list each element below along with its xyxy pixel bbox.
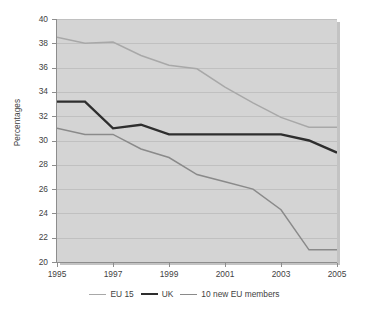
- plot-area-wrapper: [57, 19, 337, 262]
- x-axis-line: [56, 262, 337, 263]
- legend-item[interactable]: EU 15: [89, 290, 133, 298]
- x-axis-tick: [225, 263, 226, 267]
- series-lines: [57, 19, 337, 262]
- y-axis-tick: [52, 92, 57, 93]
- x-axis-tick: [169, 263, 170, 267]
- y-axis-label: 30: [20, 136, 48, 144]
- legend-swatch-line-icon: [141, 293, 158, 295]
- y-axis-tick: [52, 141, 57, 142]
- x-axis-label: 1999: [149, 270, 189, 278]
- line-chart: Percentages 2022242628303234363840 19951…: [0, 0, 369, 314]
- y-axis-tick: [52, 213, 57, 214]
- chart-legend: EU 15UK10 new EU members: [0, 290, 369, 298]
- y-axis-label: 20: [20, 258, 48, 266]
- legend-label: 10 new EU members: [201, 290, 279, 298]
- legend-item[interactable]: UK: [141, 290, 174, 298]
- legend-label: EU 15: [110, 290, 133, 298]
- x-axis-label: 1995: [37, 270, 77, 278]
- y-axis-tick: [52, 116, 57, 117]
- x-axis-tick: [337, 263, 338, 267]
- y-axis-tick: [52, 189, 57, 190]
- x-axis-label: 2003: [261, 270, 301, 278]
- y-axis-tick: [52, 43, 57, 44]
- y-axis-label: 36: [20, 63, 48, 71]
- series-line: [57, 128, 337, 250]
- x-axis-tick: [113, 263, 114, 267]
- series-line: [57, 102, 337, 153]
- x-axis-tick: [281, 263, 282, 267]
- legend-item[interactable]: 10 new EU members: [180, 290, 279, 298]
- x-axis-label: 1997: [93, 270, 133, 278]
- y-axis-label: 22: [20, 233, 48, 241]
- x-axis-label: 2005: [317, 270, 357, 278]
- y-axis-label: 24: [20, 209, 48, 217]
- y-axis-tick: [52, 19, 57, 20]
- y-axis-label: 38: [20, 39, 48, 47]
- legend-swatch-line-icon: [180, 294, 197, 295]
- legend-label: UK: [162, 290, 174, 298]
- legend-swatch-line-icon: [89, 294, 106, 295]
- x-axis-label: 2001: [205, 270, 245, 278]
- plot-area: [57, 19, 337, 262]
- y-axis-tick: [52, 165, 57, 166]
- y-axis-label: 32: [20, 112, 48, 120]
- x-axis-tick: [57, 263, 58, 267]
- y-axis-label: 40: [20, 15, 48, 23]
- y-axis-tick: [52, 68, 57, 69]
- y-axis-tick: [52, 238, 57, 239]
- y-axis-label: 26: [20, 185, 48, 193]
- y-axis-label: 28: [20, 160, 48, 168]
- y-axis-label: 34: [20, 87, 48, 95]
